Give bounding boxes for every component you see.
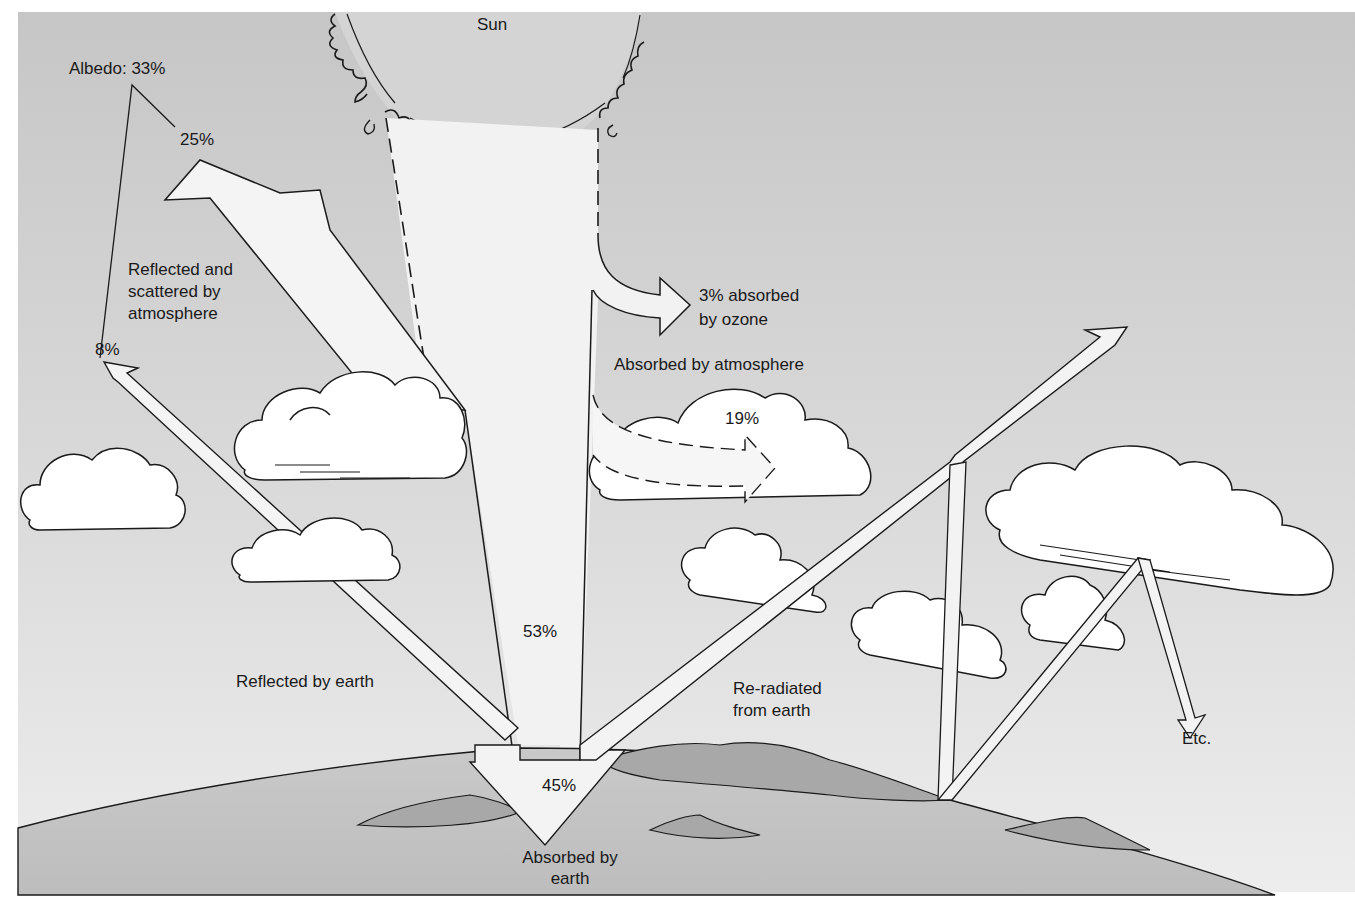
earth-percent: 45% — [542, 775, 576, 796]
scattered-percent: 25% — [180, 129, 214, 150]
etc-label: Etc. — [1182, 728, 1211, 749]
ozone-label: 3% absorbed by ozone — [699, 284, 799, 332]
atmosphere-percent: 19% — [725, 408, 759, 429]
sun-label: Sun — [477, 14, 507, 35]
reflected-earth-percent: 8% — [95, 339, 120, 360]
reradiated-label: Re-radiated from earth — [733, 678, 822, 722]
transmitted-percent: 53% — [523, 621, 557, 642]
scattered-description: Reflected and scattered by atmosphere — [128, 259, 233, 325]
reflected-earth-label: Reflected by earth — [236, 671, 374, 692]
radiation-budget-diagram: Sun Albedo: 33% 25% Reflected and scatte… — [0, 0, 1355, 904]
albedo-label: Albedo: 33% — [69, 58, 165, 79]
atmosphere-label: Absorbed by atmosphere — [614, 354, 804, 375]
earth-label: Absorbed by earth — [505, 847, 635, 889]
